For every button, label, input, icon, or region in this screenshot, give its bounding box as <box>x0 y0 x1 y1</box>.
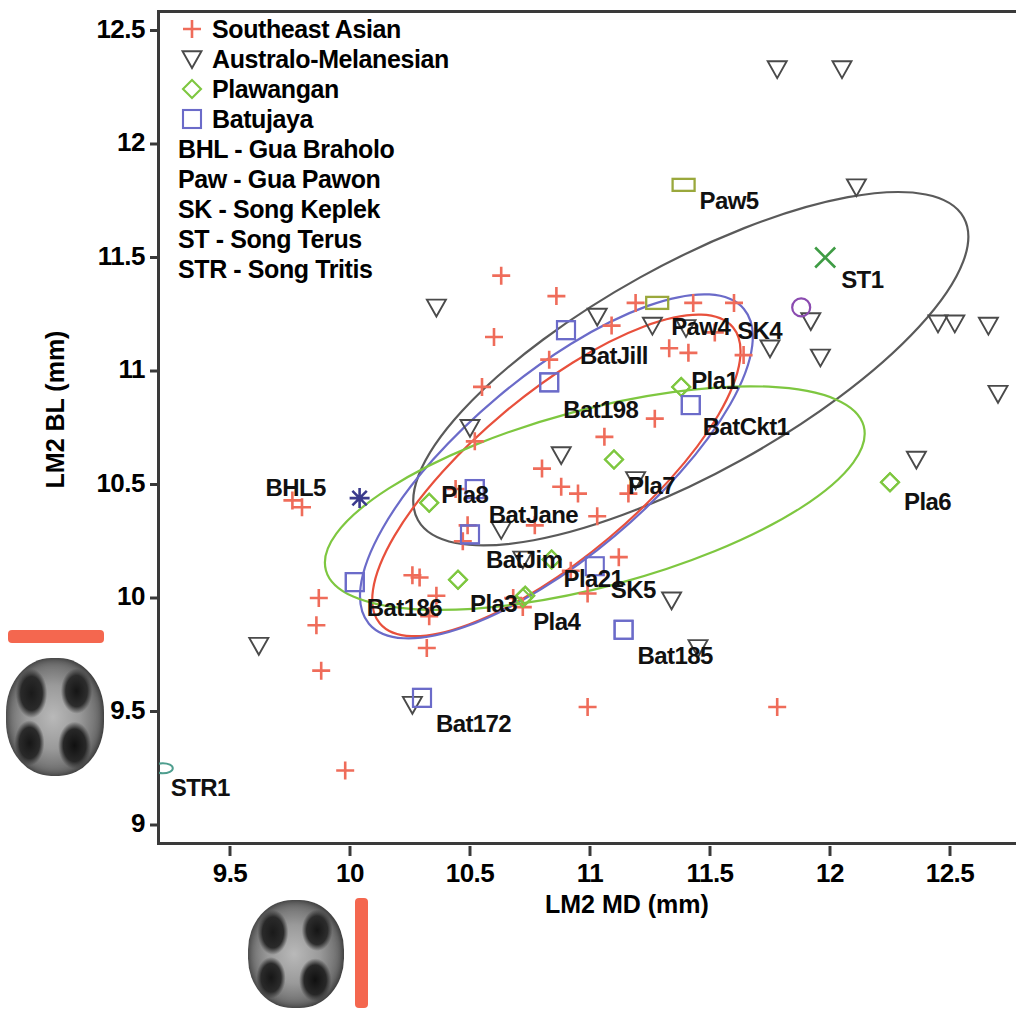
legend-entry-australo-melanesian[interactable]: Australo-Melanesian <box>178 44 508 74</box>
legend-symbol <box>183 110 201 128</box>
specimen-label-batjane: BatJane <box>489 501 578 529</box>
legend-abbreviation: ST - Song Terus <box>178 224 508 254</box>
x-tick-label: 11.5 <box>670 858 750 889</box>
x-tick-label: 9.5 <box>190 858 270 889</box>
specimen-label-batjim: BatJim <box>486 546 562 574</box>
legend-entry-label: Batujaya <box>212 104 313 134</box>
specimen-label-batjill: BatJill <box>580 342 648 370</box>
legend-symbol-svg <box>178 44 212 74</box>
specimen-label-bat185: Bat185 <box>638 642 713 670</box>
legend-entry-plawangan[interactable]: Plawangan <box>178 74 508 104</box>
legend-entry-label: Southeast Asian <box>212 14 401 44</box>
legend-entry-label: Australo-Melanesian <box>212 44 449 74</box>
legend-marker-icon <box>178 74 212 104</box>
specimen-label-paw5: Paw5 <box>700 187 759 215</box>
specimen-label-pla8: Pla8 <box>441 481 488 509</box>
legend-abbreviation: Paw - Gua Pawon <box>178 164 508 194</box>
legend-symbol-svg <box>178 74 212 104</box>
specimen-label-sk4: SK4 <box>737 317 782 345</box>
specimen-label-pla7: Pla7 <box>628 472 675 500</box>
x-tick-label: 11 <box>550 858 630 889</box>
specimen-label-pla3: Pla3 <box>470 590 517 618</box>
specimen-label-pla1: Pla1 <box>691 367 738 395</box>
occlusal-tooth-photo-bottom <box>248 900 344 1008</box>
legend-symbol-svg <box>178 14 212 44</box>
legend-symbol <box>183 51 202 68</box>
specimen-label-bat186: Bat186 <box>367 594 442 622</box>
scale-bar-horizontal <box>8 630 104 643</box>
legend-marker-icon <box>178 104 212 134</box>
y-axis-title: LM2 BL (mm) <box>41 300 70 520</box>
legend-entry-batujaya[interactable]: Batujaya <box>178 104 508 134</box>
scale-bar-vertical <box>355 898 368 1008</box>
specimen-label-bat172: Bat172 <box>436 710 511 738</box>
legend-symbol <box>183 20 201 38</box>
x-tick-label: 12 <box>790 858 870 889</box>
x-tick-label: 10 <box>310 858 390 889</box>
figure-root: 12.51211.51110.5109.59 9.51010.51111.512… <box>0 0 1016 1010</box>
legend-abbreviation: STR - Song Tritis <box>178 254 508 284</box>
x-tick-label: 10.5 <box>430 858 510 889</box>
legend-abbreviation: BHL - Gua Braholo <box>178 134 508 164</box>
y-tick-label: 11.5 <box>75 241 145 272</box>
y-tick-label: 9 <box>75 808 145 839</box>
y-tick-label: 11 <box>75 354 145 385</box>
y-tick-label: 10 <box>75 581 145 612</box>
legend-marker-icon <box>178 14 212 44</box>
y-tick-label: 12.5 <box>75 14 145 45</box>
legend-entry-southeast-asian[interactable]: Southeast Asian <box>178 14 508 44</box>
specimen-label-pla6: Pla6 <box>904 488 951 516</box>
legend-marker-icon <box>178 44 212 74</box>
specimen-label-pla4: Pla4 <box>533 608 580 636</box>
specimen-label-sk5: SK5 <box>611 576 656 604</box>
legend-symbol <box>183 80 201 98</box>
legend-symbol-svg <box>178 104 212 134</box>
specimen-label-paw4: Paw4 <box>671 313 730 341</box>
x-tick-label: 12.5 <box>910 858 990 889</box>
specimen-label-st1: ST1 <box>841 266 883 294</box>
y-tick-label: 12 <box>75 127 145 158</box>
specimen-label-batckt1: BatCkt1 <box>703 413 790 441</box>
specimen-label-bat198: Bat198 <box>563 396 638 424</box>
legend: Southeast AsianAustralo-MelanesianPlawan… <box>178 14 508 284</box>
y-tick-label: 10.5 <box>75 468 145 499</box>
legend-entry-label: Plawangan <box>212 74 339 104</box>
occlusal-tooth-photo-left <box>6 658 104 776</box>
specimen-label-str1: STR1 <box>171 774 230 802</box>
specimen-label-bhl5: BHL5 <box>266 474 326 502</box>
legend-abbreviation: SK - Song Keplek <box>178 194 508 224</box>
x-axis-title: LM2 MD (mm) <box>545 890 709 919</box>
